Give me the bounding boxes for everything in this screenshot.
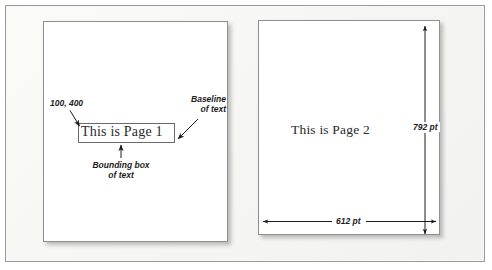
page-1-text: This is Page 1 [81,124,163,140]
page-2-text: This is Page 2 [291,122,370,138]
page-width-label: 612 pt [334,216,363,226]
figure-container: This is Page 1 This is Page 2 100, 400 B… [0,0,492,270]
baseline-label-line-2: of text [186,105,226,115]
coordinates-label: 100, 400 [50,99,83,109]
baseline-label: Baseline of text [186,95,226,114]
page-height-label: 792 pt [411,122,440,132]
bounding-box-label: Bounding box of text [82,161,160,180]
bounding-box-label-line-2: of text [82,171,160,181]
